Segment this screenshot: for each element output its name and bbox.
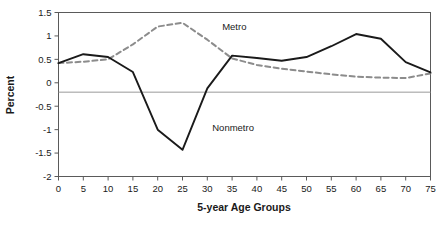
y-axis-title: Percent (4, 75, 16, 114)
x-tick-label: 15 (128, 183, 139, 194)
y-tick-label: -0.5 (35, 101, 51, 112)
x-tick-label: 0 (56, 183, 61, 194)
x-axis-ticks: 051015202530354045505560657075 (56, 177, 436, 194)
x-tick-label: 30 (202, 183, 213, 194)
line-chart: -2-1.5-1-0.500.511.5 0510152025303540455… (0, 0, 447, 225)
y-tick-label: -2 (43, 171, 51, 182)
x-tick-label: 75 (425, 183, 436, 194)
x-tick-label: 20 (152, 183, 163, 194)
y-tick-label: -1 (43, 124, 51, 135)
x-tick-label: 70 (400, 183, 411, 194)
series-annotation-nonmetro: Nonmetro (212, 122, 254, 133)
x-tick-label: 50 (301, 183, 312, 194)
y-tick-label: 0.5 (38, 54, 51, 65)
y-tick-label: -1.5 (35, 147, 51, 158)
y-tick-label: 1 (46, 30, 51, 41)
x-tick-label: 35 (227, 183, 238, 194)
x-tick-label: 55 (326, 183, 337, 194)
x-tick-label: 5 (81, 183, 86, 194)
chart-container: -2-1.5-1-0.500.511.5 0510152025303540455… (0, 0, 447, 225)
series-annotation-metro: Metro (222, 21, 246, 32)
x-tick-label: 65 (376, 183, 387, 194)
y-tick-label: 0 (46, 77, 51, 88)
x-axis-title: 5-year Age Groups (197, 201, 291, 213)
x-tick-label: 60 (351, 183, 362, 194)
x-tick-label: 45 (276, 183, 287, 194)
x-tick-label: 40 (252, 183, 263, 194)
y-tick-label: 1.5 (38, 7, 51, 18)
x-tick-label: 25 (177, 183, 188, 194)
x-tick-label: 10 (103, 183, 114, 194)
y-axis-ticks: -2-1.5-1-0.500.511.5 (35, 7, 58, 182)
